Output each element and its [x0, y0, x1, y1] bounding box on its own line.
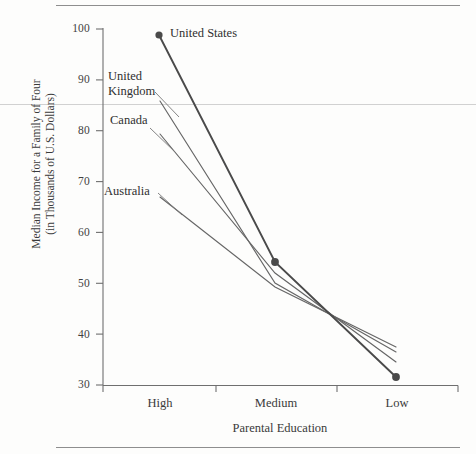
series-lines [159, 35, 396, 377]
series-label-canada: Canada [110, 113, 147, 128]
series-label-united-kingdom: United Kingdom [108, 69, 155, 99]
series-line-canada [160, 134, 396, 362]
y-axis-title: Median Income for a Family of Four (in T… [29, 39, 57, 289]
x-tick-label-low: Low [352, 396, 442, 411]
series-line-united-states [159, 35, 396, 377]
y-axis-title-line2: (in Thousands of U.S. Dollars) [43, 39, 57, 289]
leader-line-australia [158, 193, 182, 215]
series-line-united-kingdom [160, 101, 396, 352]
series-label-uk-line2: Kingdom [108, 84, 155, 99]
y-tick-label-80: 80 [60, 124, 90, 136]
series-markers-united-states [155, 31, 400, 381]
y-tick-label-100: 100 [60, 22, 90, 34]
x-axis-title: Parental Education [180, 421, 380, 436]
y-tick-label-40: 40 [60, 328, 90, 340]
data-point-us-low [392, 373, 400, 381]
y-axis-ticks [96, 29, 103, 385]
data-point-us-medium [271, 258, 279, 266]
y-tick-label-60: 60 [60, 226, 90, 238]
y-axis-title-line1: Median Income for a Family of Four [29, 39, 43, 289]
series-label-australia: Australia [104, 184, 150, 199]
y-tick-label-90: 90 [60, 73, 90, 85]
x-axis-ticks [103, 386, 458, 393]
chart-page: 100 90 80 70 60 50 40 30 High Medium Low… [0, 0, 476, 454]
y-tick-label-70: 70 [60, 175, 90, 187]
leader-line-united-kingdom [155, 92, 179, 117]
y-tick-label-30: 30 [60, 378, 90, 390]
series-label-united-states: United States [170, 26, 237, 41]
series-line-australia [160, 197, 396, 347]
x-tick-label-high: High [115, 396, 205, 411]
leader-line-canada [150, 128, 175, 152]
x-tick-label-medium: Medium [231, 396, 321, 411]
series-label-uk-line1: United [108, 69, 155, 84]
y-tick-label-50: 50 [60, 277, 90, 289]
data-point-us-high [155, 31, 162, 38]
